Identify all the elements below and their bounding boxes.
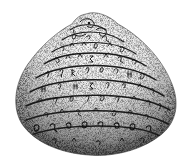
shell-svg	[0, 0, 193, 167]
shell-illustration: Engraved bivalve (clam) shell with inscr…	[0, 0, 193, 167]
